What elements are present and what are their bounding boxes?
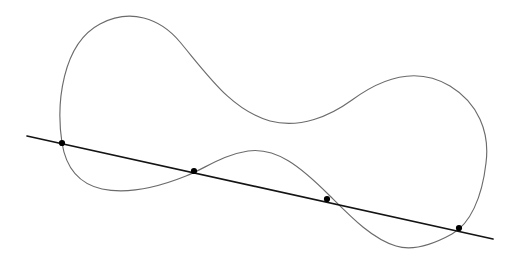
- intersection-point-p4: [456, 225, 462, 231]
- canvas-background: [0, 0, 513, 262]
- intersection-point-p1: [59, 140, 65, 146]
- intersection-point-p2: [191, 168, 197, 174]
- intersection-point-p3: [324, 196, 330, 202]
- geometry-diagram: [0, 0, 513, 262]
- figure-canvas: [0, 0, 513, 262]
